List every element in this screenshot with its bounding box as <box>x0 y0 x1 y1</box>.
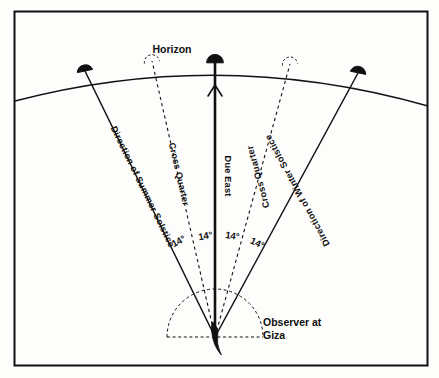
label-cross-quarter-right: Cross Quarter <box>245 144 272 209</box>
ray-winter-solstice <box>215 73 358 337</box>
horizon-diagram: Horizon Due East Direction of Summer Sol… <box>0 0 439 378</box>
label-observer-line2: Giza <box>263 329 285 341</box>
label-horizon: Horizon <box>152 43 191 55</box>
sun-disc-summer-solstice <box>77 65 92 73</box>
angle-label-2: 14° <box>197 229 213 242</box>
label-observer-line1: Observer at <box>263 316 322 328</box>
sun-disc-due-east <box>207 54 224 62</box>
diagram-frame <box>15 12 428 366</box>
label-summer-solstice: Direction of Summer Solstice <box>109 124 177 249</box>
sun-disc-winter-solstice <box>350 66 365 74</box>
label-cross-quarter-left: Cross Quarter <box>167 142 191 207</box>
angle-label-3: 14° <box>225 229 241 242</box>
label-due-east: Due East <box>223 156 233 197</box>
angle-label-4: 14° <box>249 235 267 251</box>
horizon-arc <box>15 75 428 106</box>
diagram-canvas: Horizon Due East Direction of Summer Sol… <box>0 0 439 378</box>
ray-cross-quarter-right <box>215 64 290 337</box>
